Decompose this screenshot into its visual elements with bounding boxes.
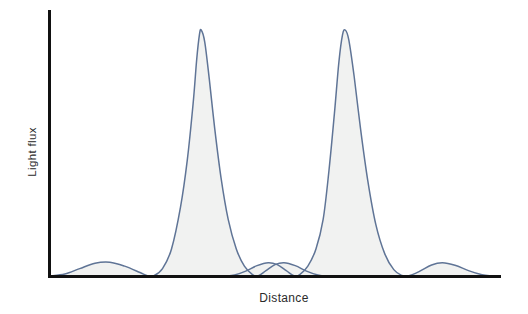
figure-container: Light flux Distance <box>0 0 528 314</box>
series-area-airy-2 <box>226 30 492 277</box>
y-axis-label: Light flux <box>26 127 38 177</box>
x-axis-label: Distance <box>259 291 309 305</box>
series-area-airy-1 <box>50 30 325 277</box>
diffraction-plot: Light flux Distance <box>0 0 528 314</box>
